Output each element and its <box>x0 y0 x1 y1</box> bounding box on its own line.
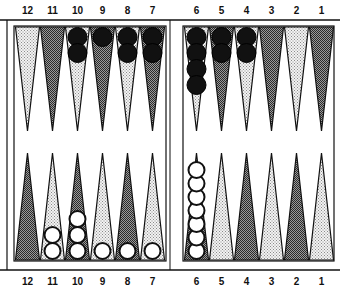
left-half-box <box>14 26 166 261</box>
point-label-top: 8 <box>125 5 131 16</box>
black-checker[interactable] <box>212 44 231 63</box>
white-checker[interactable] <box>145 243 161 259</box>
point-top-1[interactable] <box>310 27 334 131</box>
point-label-bottom: 11 <box>47 276 58 287</box>
point-bottom-3[interactable] <box>260 153 284 260</box>
point-label-bottom: 7 <box>150 276 156 287</box>
white-checker[interactable] <box>70 243 86 259</box>
point-bottom-12[interactable] <box>16 153 40 260</box>
point-bottom-5[interactable] <box>210 153 234 260</box>
white-checker[interactable] <box>189 162 205 178</box>
point-label-top: 5 <box>219 5 225 16</box>
point-top-12[interactable] <box>16 27 40 131</box>
points-layer <box>16 27 334 260</box>
point-label-top: 9 <box>100 5 106 16</box>
point-label-bottom: 12 <box>22 276 34 287</box>
point-label-top: 11 <box>47 5 58 16</box>
point-label-bottom: 2 <box>294 276 300 287</box>
white-checker[interactable] <box>70 211 86 227</box>
point-bottom-2[interactable] <box>285 153 309 260</box>
point-label-top: 2 <box>294 5 300 16</box>
white-checker[interactable] <box>45 243 61 259</box>
black-checker[interactable] <box>93 28 112 47</box>
black-checker[interactable] <box>187 76 206 95</box>
point-label-bottom: 8 <box>125 276 131 287</box>
point-label-bottom: 9 <box>100 276 106 287</box>
point-label-bottom: 3 <box>269 276 275 287</box>
white-checker[interactable] <box>70 227 86 243</box>
black-checker[interactable] <box>237 44 256 63</box>
point-label-top: 6 <box>194 5 200 16</box>
point-top-2[interactable] <box>285 27 309 131</box>
point-label-bottom: 1 <box>319 276 325 287</box>
point-label-bottom: 6 <box>194 276 200 287</box>
point-label-bottom: 4 <box>244 276 250 287</box>
white-checker[interactable] <box>120 243 136 259</box>
point-label-top: 7 <box>150 5 156 16</box>
point-label-top: 1 <box>319 5 325 16</box>
point-top-11[interactable] <box>41 27 65 131</box>
point-label-bottom: 5 <box>219 276 225 287</box>
point-label-bottom: 10 <box>72 276 84 287</box>
point-bottom-4[interactable] <box>235 153 259 260</box>
black-checker[interactable] <box>68 44 87 63</box>
point-bottom-1[interactable] <box>310 153 334 260</box>
black-checker[interactable] <box>143 44 162 63</box>
point-label-top: 12 <box>22 5 34 16</box>
point-label-top: 4 <box>244 5 250 16</box>
point-label-top: 10 <box>72 5 84 16</box>
point-top-3[interactable] <box>260 27 284 131</box>
point-label-top: 3 <box>269 5 275 16</box>
white-checker[interactable] <box>95 243 111 259</box>
black-checker[interactable] <box>118 44 137 63</box>
backgammon-board: 121211111010998877665544332211 <box>0 0 340 292</box>
right-half-box <box>183 26 334 261</box>
white-checker[interactable] <box>45 227 61 243</box>
